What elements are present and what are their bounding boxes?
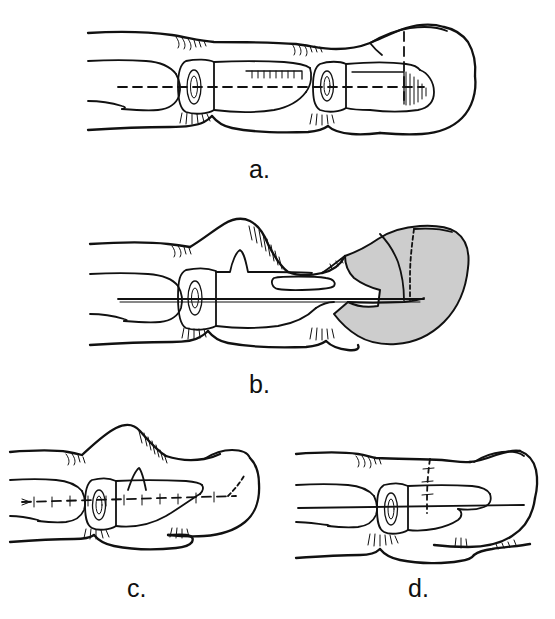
- proximal-phalanx-head-a: [122, 74, 180, 110]
- fused-phalanx-dorsal-cortex-c: [116, 480, 202, 485]
- panel-label-c: c.: [127, 576, 146, 601]
- distal-phalanx-tuft-a: [370, 70, 434, 112]
- volar-skin-outline-b3: [326, 341, 359, 350]
- nail-fold-arc-a: [370, 27, 447, 43]
- distal-phalanx-dorsal-cortex-a: [346, 63, 420, 71]
- proximal-phalanx-volar-cortex-b: [90, 314, 127, 321]
- panel-b-illustration: [0, 198, 555, 378]
- dorsal-hump-hatching-b: [249, 226, 282, 269]
- volar-skin-outline-a: [88, 116, 212, 130]
- figure-root: a.: [0, 0, 555, 619]
- dip-volar-crease-hatching-a: [310, 114, 334, 125]
- pip-volar-plate-outer-c: [85, 479, 116, 530]
- kwire-distal-exit-c: [228, 476, 244, 496]
- dorsal-skin-outline-c: [10, 451, 82, 456]
- fused-phalanx-distal-end-c: [200, 485, 203, 494]
- middle-phalanx-head-b: [316, 302, 334, 308]
- panel-label-b: b.: [249, 372, 270, 397]
- pip-collateral-oval-inner-c: [96, 496, 102, 514]
- volar-skin-outline-a3: [328, 126, 380, 134]
- proximal-phalanx-volar-cortex-c: [10, 516, 40, 521]
- proximal-phalanx-head-c: [38, 491, 85, 522]
- dorsal-skin-outline-d: [296, 453, 470, 463]
- distal-phalanx-volar-cortex-a: [346, 108, 370, 110]
- fingertip-dorsal-curve-c: [250, 458, 259, 484]
- proximal-phalanx-dorsal-cortex-d: [296, 484, 374, 496]
- volar-skin-outline-b: [90, 331, 208, 345]
- remaining-phalanx-volar-cortex-d: [408, 509, 461, 531]
- dip-collateral-oval-inner-a: [324, 77, 330, 96]
- volar-skin-outline-d2: [380, 549, 474, 563]
- dip-volar-crease-hatching-b: [310, 328, 334, 340]
- distal-phalanx-shelf-a: [352, 72, 404, 104]
- middle-phalanx-dorsal-cortex-b: [272, 272, 312, 273]
- volar-skin-outline-c: [10, 535, 94, 542]
- displaced-phalanx-spike-b: [216, 250, 272, 272]
- pip-collateral-oval-d: [385, 493, 398, 525]
- proximal-phalanx-head-d: [328, 496, 377, 527]
- nail-base-edge-a: [370, 43, 382, 55]
- dorsal-skin-outline-a: [88, 25, 444, 49]
- middle-phalanx-dorsal-cortex-a: [214, 61, 310, 68]
- dorsal-hump-outline-c: [82, 425, 166, 456]
- dorsal-hump-outline-b: [190, 219, 288, 272]
- panel-label-d: d.: [408, 576, 429, 601]
- proximal-phalanx-dorsal-cortex-c: [10, 479, 82, 491]
- pip-volar-plate-outer-d: [377, 484, 408, 534]
- middle-phalanx-dorsal-slot-b: [272, 277, 335, 291]
- kwire-tick-marks-c: [34, 492, 214, 507]
- remaining-phalanx-distal-end-d: [458, 494, 491, 510]
- volar-skin-outline-d: [296, 549, 380, 558]
- middle-phalanx-head-a: [306, 68, 311, 92]
- proximal-phalanx-head-b: [124, 286, 182, 322]
- nail-dorsal-curve-a: [444, 27, 475, 76]
- panel-label-a: a.: [249, 157, 270, 182]
- longitudinal-axis-solid-d: [298, 505, 524, 508]
- pip-collateral-oval-inner-d: [388, 499, 394, 519]
- proximal-phalanx-volar-cortex-a: [88, 101, 125, 109]
- panel-c-illustration: [0, 412, 290, 582]
- proximal-phalanx-dorsal-cortex-b: [90, 273, 178, 286]
- panel-d-illustration: [270, 412, 555, 582]
- panel-a-illustration: [0, 0, 555, 160]
- proximal-phalanx-dorsal-cortex-a: [88, 60, 176, 74]
- pip-collateral-oval-b: [188, 281, 202, 315]
- shaded-pulp-flap-b: [334, 226, 469, 344]
- nail-wedge-outline-b: [322, 256, 345, 273]
- osteotomy-apex-spike-c: [128, 468, 146, 490]
- dorsal-skin-outline-b: [90, 243, 190, 248]
- pip-collateral-oval-inner-b: [192, 288, 199, 308]
- kwire-axis-dashed-c: [22, 496, 236, 502]
- middle-phalanx-volar-cortex-b: [216, 308, 316, 328]
- middle-phalanx-volar-cortex-a: [214, 92, 306, 112]
- dip-collateral-oval-a: [321, 71, 334, 101]
- pip-collateral-oval-c: [93, 490, 106, 520]
- volar-skin-outline-b2: [208, 331, 326, 347]
- middle-phalanx-hatching-a: [252, 71, 294, 78]
- distal-phalanx-hatching-a: [406, 72, 426, 105]
- proximal-phalanx-volar-cortex-d: [296, 522, 330, 526]
- remaining-phalanx-dorsal-cortex-d: [408, 485, 490, 494]
- fingertip-dorsal-curve-d: [520, 451, 537, 498]
